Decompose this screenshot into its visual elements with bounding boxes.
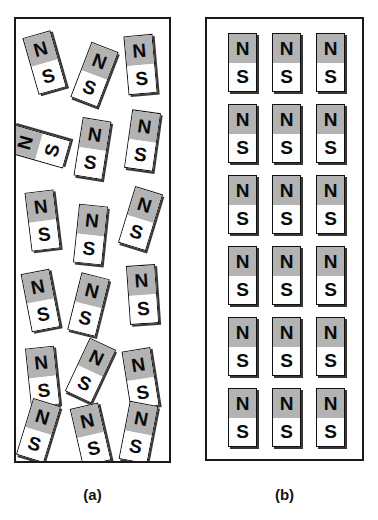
north-pole-label: N — [77, 205, 107, 236]
south-pole-label: S — [32, 59, 66, 94]
magnet-b-16: NS — [272, 388, 301, 447]
south-pole-label: S — [129, 294, 158, 324]
magnet-a-4: NS — [74, 117, 112, 180]
panel-b-caption: (b) — [205, 486, 364, 503]
south-pole-label: S — [273, 134, 300, 163]
magnet-b-9: NS — [228, 246, 257, 305]
magnet-b-14: NS — [316, 317, 345, 376]
north-pole-label: N — [317, 247, 344, 276]
south-pole-label: S — [127, 63, 156, 94]
magnet-a-12: NS — [25, 346, 60, 408]
south-pole-label: S — [273, 347, 300, 376]
north-pole-label: N — [229, 105, 256, 134]
south-pole-label: S — [229, 418, 256, 447]
south-pole-label: S — [317, 276, 344, 305]
magnet-b-15: NS — [228, 388, 257, 447]
magnet-b-13: NS — [272, 317, 301, 376]
north-pole-label: N — [26, 191, 56, 223]
south-pole-label: S — [317, 347, 344, 376]
south-pole-label: S — [229, 63, 256, 92]
north-pole-label: N — [273, 247, 300, 276]
magnet-a-11: NS — [126, 264, 159, 325]
north-pole-label: N — [317, 105, 344, 134]
magnet-a-14: NS — [122, 347, 160, 410]
magnet-b-10: NS — [272, 246, 301, 305]
magnet-a-5: NS — [124, 109, 161, 171]
south-pole-label: S — [229, 276, 256, 305]
panel-b-aligned-domains: NSNSNSNSNSNSNSNSNSNSNSNSNSNSNSNSNSNS — [205, 17, 364, 461]
magnet-a-13: NS — [65, 338, 116, 404]
north-pole-label: N — [125, 35, 154, 66]
north-pole-label: N — [229, 34, 256, 63]
magnet-b-17: NS — [316, 388, 345, 447]
south-pole-label: S — [229, 134, 256, 163]
north-pole-label: N — [317, 389, 344, 418]
magnet-a-2: NS — [123, 34, 157, 95]
magnet-a-16: NS — [70, 402, 112, 463]
south-pole-label: S — [120, 430, 152, 463]
south-pole-label: S — [273, 276, 300, 305]
magnet-b-6: NS — [228, 175, 257, 234]
north-pole-label: N — [229, 318, 256, 347]
south-pole-label: S — [69, 301, 102, 335]
magnet-a-9: NS — [21, 269, 61, 332]
south-pole-label: S — [229, 205, 256, 234]
magnet-b-2: NS — [316, 33, 345, 92]
magnet-b-8: NS — [316, 175, 345, 234]
south-pole-label: S — [273, 63, 300, 92]
north-pole-label: N — [229, 247, 256, 276]
magnet-a-8: NS — [118, 186, 163, 251]
north-pole-label: N — [273, 389, 300, 418]
north-pole-label: N — [317, 318, 344, 347]
south-pole-label: S — [317, 63, 344, 92]
south-pole-label: S — [317, 205, 344, 234]
magnet-a-10: NS — [67, 272, 109, 336]
magnet-a-7: NS — [73, 204, 108, 266]
north-pole-label: N — [26, 347, 56, 378]
south-pole-label: S — [125, 139, 156, 171]
south-pole-label: S — [29, 219, 59, 251]
magnet-b-12: NS — [228, 317, 257, 376]
north-pole-label: N — [273, 318, 300, 347]
north-pole-label: N — [127, 265, 156, 295]
magnet-b-4: NS — [272, 104, 301, 163]
magnet-domains-figure: NSNSNSNSNSNSNSNSNSNSNSNSNSNSNSNSNSNS NSN… — [0, 0, 378, 520]
south-pole-label: S — [229, 347, 256, 376]
magnet-b-7: NS — [272, 175, 301, 234]
magnet-b-1: NS — [272, 33, 301, 92]
magnet-b-0: NS — [228, 33, 257, 92]
magnet-a-0: NS — [22, 30, 66, 95]
north-pole-label: N — [229, 176, 256, 205]
north-pole-label: N — [129, 110, 160, 142]
north-pole-label: N — [317, 34, 344, 63]
north-pole-label: N — [317, 176, 344, 205]
north-pole-label: N — [273, 105, 300, 134]
south-pole-label: S — [77, 431, 110, 463]
south-pole-label: S — [27, 298, 59, 331]
south-pole-label: S — [317, 134, 344, 163]
panel-a-caption: (a) — [14, 486, 171, 503]
south-pole-label: S — [317, 418, 344, 447]
north-pole-label: N — [123, 348, 154, 380]
south-pole-label: S — [74, 233, 104, 264]
panel-a-random-domains: NSNSNSNSNSNSNSNSNSNSNSNSNSNSNSNSNSNS — [14, 17, 171, 463]
magnet-b-11: NS — [316, 246, 345, 305]
magnet-a-17: NS — [119, 401, 159, 463]
magnet-b-5: NS — [316, 104, 345, 163]
north-pole-label: N — [273, 34, 300, 63]
south-pole-label: S — [273, 205, 300, 234]
magnet-a-6: NS — [25, 189, 61, 251]
south-pole-label: S — [273, 418, 300, 447]
south-pole-label: S — [75, 146, 106, 178]
magnet-a-1: NS — [70, 42, 118, 107]
north-pole-label: N — [229, 389, 256, 418]
north-pole-label: N — [273, 176, 300, 205]
magnet-a-15: NS — [16, 398, 61, 463]
magnet-b-3: NS — [228, 104, 257, 163]
magnet-a-3: NS — [14, 124, 71, 168]
north-pole-label: N — [79, 118, 110, 150]
south-pole-label: S — [35, 134, 70, 168]
